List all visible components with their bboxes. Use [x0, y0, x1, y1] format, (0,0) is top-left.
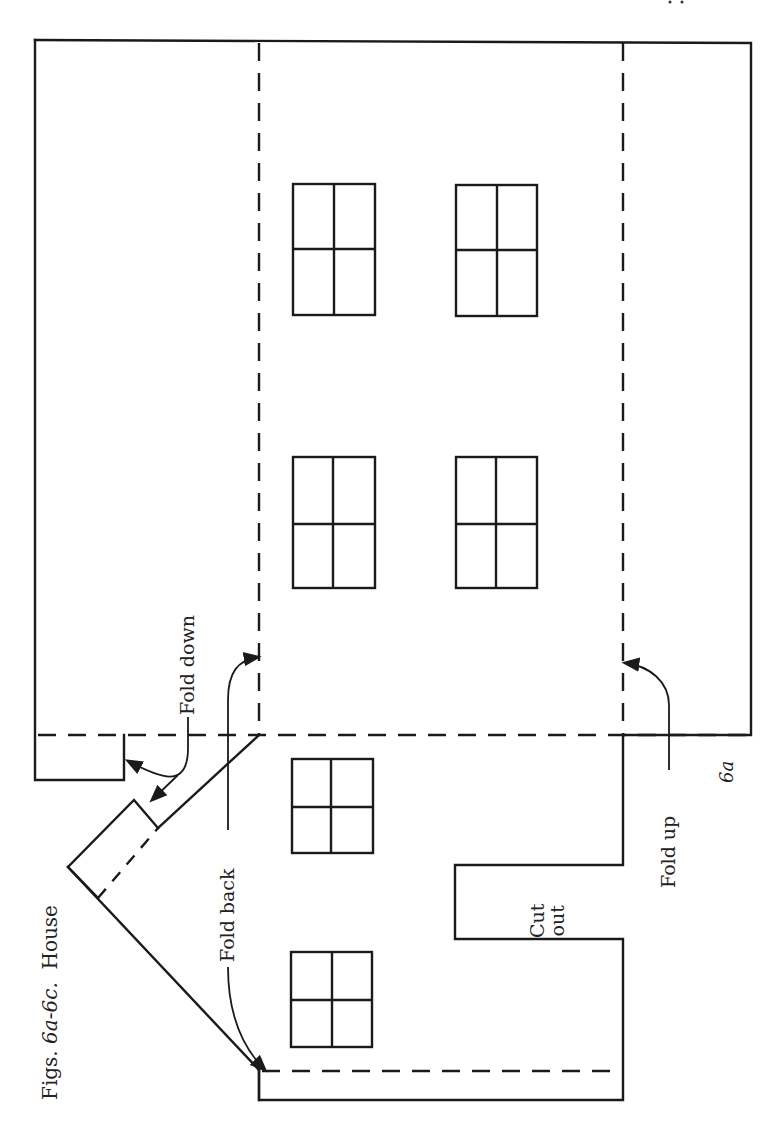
window-middle-left — [293, 457, 375, 588]
cut-out-line-1: Cut — [528, 904, 548, 938]
fold-up-label: Fold up — [659, 816, 678, 888]
outer-outline — [35, 40, 751, 1100]
diagram-drawing — [0, 0, 769, 1130]
window-upper-left — [293, 184, 375, 315]
figure-number: 6a — [718, 761, 736, 783]
fold-down-tab-outline — [35, 40, 124, 780]
cut-out-label: Cut out — [528, 904, 568, 938]
roof-flap-fold-line — [98, 828, 158, 898]
fold-down-arrow-to-flap — [152, 775, 178, 800]
caption-prefix: Figs. — [38, 1044, 62, 1100]
roof-flap-outline — [68, 800, 158, 898]
fold-down-label: Fold down — [178, 615, 197, 715]
caption-title: House — [38, 905, 62, 969]
gable-right-edge — [158, 735, 259, 828]
window-middle-right — [456, 457, 537, 588]
fold-down-arrow-to-tab — [128, 717, 188, 777]
cropped-page-mark — [669, 1, 684, 4]
fold-back-arrow-lower — [228, 967, 265, 1070]
house-cutout-diagram: Figs. 6a-6c. House Fold down Fold back C… — [0, 0, 769, 1130]
window-upper-right — [456, 185, 537, 316]
figure-caption: Figs. 6a-6c. House — [40, 905, 60, 1100]
window-bottom — [291, 952, 372, 1047]
caption-range: 6a-6c. — [38, 982, 62, 1044]
fold-up-arrow — [625, 663, 669, 770]
window-lower-small — [292, 759, 373, 853]
cut-out-line-2: out — [548, 904, 568, 938]
fold-back-label: Fold back — [218, 868, 237, 962]
fold-back-arrow-upper — [228, 657, 258, 830]
